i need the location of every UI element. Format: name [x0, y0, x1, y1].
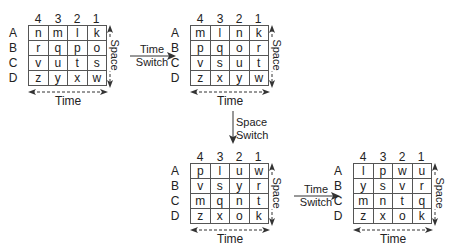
grid-block-2: 4 3 2 1 A B C D mlnk pqor vsut zxyw Spac…: [168, 12, 318, 122]
grid-block-4: 4 3 2 1 A B C D lpwu ysvr mntq zxok Spac…: [331, 150, 458, 250]
space-axis-label: Space: [109, 38, 121, 71]
time-axis-label: Time: [380, 232, 406, 246]
space-switch-label: Space Switch: [236, 116, 286, 142]
space-axis-label: Space: [271, 38, 283, 71]
time-axis-label: Time: [217, 232, 243, 246]
space-axis-label: Space: [271, 176, 283, 209]
space-axis-label: Space: [434, 176, 446, 209]
switch-label-line1: Space: [236, 116, 286, 129]
time-axis-label: Time: [55, 94, 81, 108]
time-axis-label: Time: [217, 94, 243, 108]
switch-label-line2: Switch: [236, 129, 286, 142]
